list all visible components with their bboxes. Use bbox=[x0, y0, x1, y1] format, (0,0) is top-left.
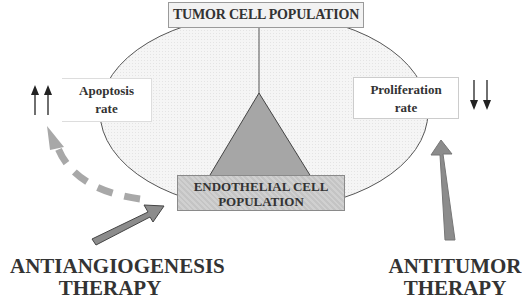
tumor-cell-population-box: TUMOR CELL POPULATION bbox=[168, 2, 364, 28]
antitumor-text: ANTITUMOR bbox=[388, 255, 522, 277]
apoptosis-up-arrows-icon bbox=[31, 85, 52, 115]
endothelial-cell-population-box: ENDOTHELIAL CELL POPULATION bbox=[177, 175, 345, 211]
proliferation-rate-label: rate bbox=[354, 99, 458, 117]
antitumor-arrow-icon bbox=[431, 140, 455, 240]
antiangiogenesis-therapy-text: THERAPY bbox=[10, 277, 210, 299]
antitumor-therapy-label: ANTITUMOR THERAPY bbox=[388, 255, 522, 299]
proliferation-rate-box: Proliferation rate bbox=[353, 77, 459, 119]
antiangiogenesis-arrow-icon bbox=[92, 205, 164, 245]
endothelial-label-line2: POPULATION bbox=[178, 194, 344, 209]
apoptosis-rate-label: rate bbox=[62, 100, 151, 118]
tumor-cell-population-label: TUMOR CELL POPULATION bbox=[173, 7, 359, 22]
antitumor-therapy-text: THERAPY bbox=[388, 277, 522, 299]
antiangiogenesis-text: ANTIANGIOGENESIS bbox=[10, 255, 210, 277]
antiangiogenesis-therapy-label: ANTIANGIOGENESIS THERAPY bbox=[10, 255, 210, 299]
proliferation-label: Proliferation bbox=[354, 81, 458, 99]
apoptosis-rate-box: Apoptosis rate bbox=[62, 78, 152, 122]
proliferation-down-arrows-icon bbox=[470, 80, 491, 110]
apoptosis-label: Apoptosis bbox=[62, 82, 151, 100]
endothelial-label-line1: ENDOTHELIAL CELL bbox=[178, 179, 344, 194]
